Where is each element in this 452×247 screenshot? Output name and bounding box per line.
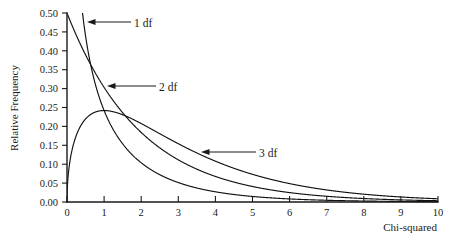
x-tick-label: 4: [213, 207, 219, 218]
x-axis-tick-labels: 012345678910: [64, 207, 443, 218]
y-tick-label: 0.30: [40, 83, 58, 94]
x-tick-label: 5: [250, 207, 255, 218]
annotation-1-df: 1 df: [87, 17, 152, 29]
annotation-2-df-arrowhead: [107, 83, 116, 89]
y-tick-label: 0.25: [40, 102, 58, 113]
x-tick-label: 1: [101, 207, 106, 218]
curve-2-df: [67, 14, 438, 201]
y-axis-title: Relative Frequency: [8, 65, 20, 151]
x-tick-label: 10: [433, 207, 444, 218]
y-tick-label: 0.15: [40, 140, 58, 151]
annotation-3-df-arrowhead: [201, 149, 210, 155]
x-tick-label: 7: [324, 207, 329, 218]
annotation-3-df: 3 df: [201, 147, 277, 159]
x-tick-label: 6: [287, 207, 292, 218]
y-tick-label: 0.20: [40, 121, 58, 132]
annotation-1-df-label: 1 df: [134, 17, 152, 29]
y-tick-label: 0.45: [40, 27, 58, 38]
x-axis-title: Chi-squared: [383, 221, 437, 233]
y-axis: 0.000.050.100.150.200.250.300.350.400.45…: [40, 8, 67, 208]
chi-squared-distribution-chart: 0.000.050.100.150.200.250.300.350.400.45…: [0, 0, 452, 247]
plot-curves: [67, 0, 438, 202]
y-axis-ticks: [62, 13, 67, 202]
y-tick-label: 0.05: [40, 178, 58, 189]
x-tick-label: 8: [361, 207, 366, 218]
y-tick-label: 0.50: [40, 8, 58, 19]
y-tick-label: 0.35: [40, 64, 58, 75]
x-tick-label: 2: [139, 207, 144, 218]
y-axis-tick-labels: 0.000.050.100.150.200.250.300.350.400.45…: [40, 8, 58, 208]
chart-page: 0.000.050.100.150.200.250.300.350.400.45…: [0, 0, 452, 247]
annotation-1-df-arrowhead: [87, 19, 96, 25]
annotation-2-df: 2 df: [107, 81, 177, 93]
y-tick-label: 0.00: [40, 197, 58, 208]
curve-1-df: [80, 0, 438, 202]
annotation-2-df-label: 2 df: [159, 81, 177, 93]
y-tick-label: 0.10: [40, 159, 58, 170]
x-tick-label: 3: [176, 207, 181, 218]
annotation-3-df-label: 3 df: [259, 147, 277, 159]
y-tick-label: 0.40: [40, 46, 58, 57]
curve-3-df: [67, 111, 438, 202]
x-tick-label: 9: [398, 207, 403, 218]
x-tick-label: 0: [64, 207, 69, 218]
